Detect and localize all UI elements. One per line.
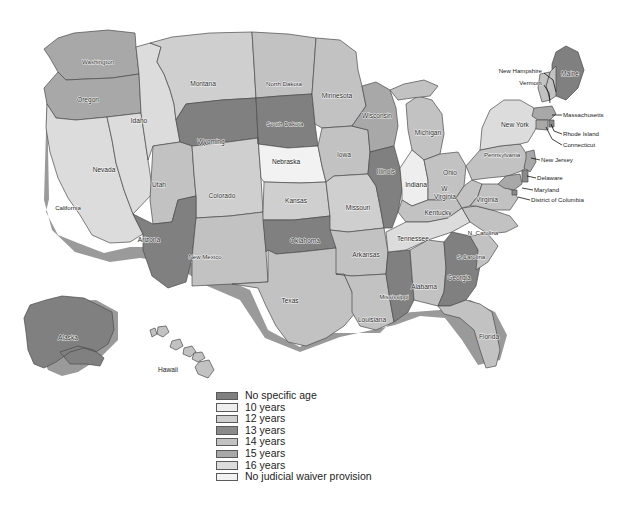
state-label-IL: Illinois xyxy=(377,168,396,175)
map-figure: WashingtonOregonCaliforniaNevadaIdahoMon… xyxy=(0,0,635,520)
state-label-WY: Wyoming xyxy=(197,138,225,146)
state-label-MN: Minnesota xyxy=(322,92,353,99)
callout-label-MD: Maryland xyxy=(534,186,559,193)
state-CO[interactable] xyxy=(192,138,263,218)
state-label-NY: New York xyxy=(501,121,530,128)
callout-label-MA: Massachusetts xyxy=(563,111,604,118)
state-label-GA: Georgia xyxy=(447,274,471,282)
state-label-WV: W. xyxy=(441,185,449,192)
state-label-ME: Maine xyxy=(561,70,579,77)
state-label-VA: Virginia xyxy=(476,196,498,204)
state-label-LA: Louisiana xyxy=(358,316,387,323)
callout-label-NH: New Hampshire xyxy=(499,67,543,74)
legend-swatch xyxy=(216,473,238,482)
state-label-PA: Pennsylvania xyxy=(484,151,521,158)
state-MN[interactable] xyxy=(312,38,366,128)
state-MA[interactable] xyxy=(532,106,556,120)
callout-label-VT: Vermont xyxy=(519,79,542,86)
state-NJ[interactable] xyxy=(524,150,536,172)
callout-label-RI: Rhode Island xyxy=(563,130,599,137)
state-label-WI: Wisconsin xyxy=(362,112,392,119)
legend-label: No judicial waiver provision xyxy=(245,471,372,483)
state-label-IN: Indiana xyxy=(405,181,427,188)
leader-line-DC xyxy=(518,197,530,200)
callout-label-DC: District of Columbia xyxy=(531,196,584,203)
state-NM[interactable] xyxy=(192,212,268,286)
legend-swatch xyxy=(216,450,238,459)
state-AK[interactable] xyxy=(24,296,114,368)
state-label-MT: Montana xyxy=(190,80,216,87)
legend-row[interactable]: No specific age xyxy=(216,390,476,402)
state-label-CA: California xyxy=(55,204,81,211)
state-label-NM: New Mexico xyxy=(188,253,222,260)
state-label-KS: Kansas xyxy=(285,197,308,204)
state-AL[interactable] xyxy=(410,240,446,306)
state-CT[interactable] xyxy=(536,120,548,130)
state-label-KY: Kentucky xyxy=(424,209,452,217)
state-label-AZ: Arizona xyxy=(138,236,161,243)
state-label-CO: Colorado xyxy=(209,192,236,199)
legend-swatch xyxy=(216,392,238,401)
callout-label-NJ: New Jersey xyxy=(541,156,574,163)
legend-label: No specific age xyxy=(245,390,317,402)
state-label-NE: Nebraska xyxy=(272,158,301,165)
state-label-TX: Texas xyxy=(281,297,299,304)
state-label-IA: Iowa xyxy=(337,151,351,158)
callout-label-CT: Connecticut xyxy=(563,141,595,148)
state-label-SC: S.Carolina xyxy=(457,253,486,260)
state-label-UT: Utah xyxy=(152,181,166,188)
legend-label: 15 years xyxy=(245,448,285,460)
state-label-MI: Michigan xyxy=(415,129,442,137)
state-label-ID: Idaho xyxy=(131,117,148,124)
legend-swatch xyxy=(216,461,238,470)
legend-swatch xyxy=(216,415,238,424)
state-label-FL: Florida xyxy=(479,333,499,340)
state-MI-UP[interactable] xyxy=(390,80,438,100)
state-ND[interactable] xyxy=(252,32,316,98)
callout-label-DE: Delaware xyxy=(537,174,563,181)
state-label-TN: Tennessee xyxy=(397,235,429,242)
state-label-OH: Ohio xyxy=(443,169,457,176)
state-label-NC: N. Carolina xyxy=(468,229,499,236)
state-label-ND: North Dakota xyxy=(266,80,303,87)
state-label-WA: Washington xyxy=(82,58,114,65)
legend-swatch xyxy=(216,426,238,435)
state-label-MO: Missouri xyxy=(346,204,371,211)
state-DC[interactable] xyxy=(512,190,517,195)
state-label-AL: Alabama xyxy=(411,283,437,290)
legend-swatch xyxy=(216,438,238,447)
state-label-HI: Hawaii xyxy=(158,366,178,373)
state-label-OK: Oklahoma xyxy=(290,237,320,244)
state-label-NV: Nevada xyxy=(93,166,116,173)
legend-row[interactable]: 15 years xyxy=(216,448,476,460)
state-label-AR: Arkansas xyxy=(352,251,380,258)
state-OK[interactable] xyxy=(263,216,336,254)
leader-line-MD xyxy=(522,188,533,190)
legend-swatch xyxy=(216,403,238,412)
state-label-MS: Mississippi xyxy=(379,293,408,300)
state-label-AK: Alaska xyxy=(58,334,78,341)
legend-row[interactable]: No judicial waiver provision xyxy=(216,471,476,483)
map-legend: No specific age10 years12 years13 years1… xyxy=(216,390,476,483)
state-label-OR: Oregon xyxy=(77,96,99,104)
leader-line-CT xyxy=(546,127,562,145)
state-label-SD: South Dakota xyxy=(267,120,305,127)
state-label-WV2: Virginia xyxy=(434,193,456,201)
